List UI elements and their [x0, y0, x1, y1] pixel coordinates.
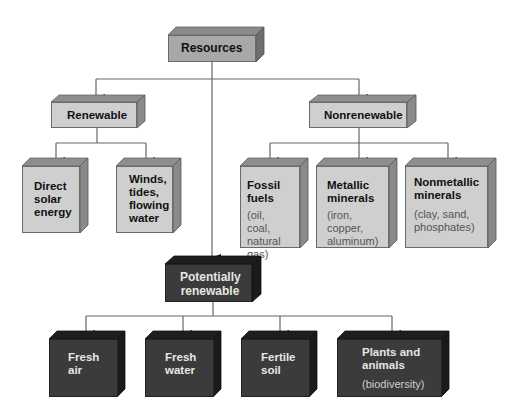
- nonmetallic-minerals-examples: (clay, sand, phosphates): [414, 208, 479, 234]
- fresh-air-label: Fresh air: [68, 351, 99, 377]
- label-line: minerals: [414, 189, 479, 202]
- label-line: Plants and: [362, 346, 424, 359]
- label-line: flowing: [129, 199, 169, 212]
- label-line: Fresh: [68, 351, 99, 364]
- label-line: Potentially: [180, 270, 240, 284]
- metallic-minerals-label: Metallic minerals (iron, copper, aluminu…: [327, 179, 378, 248]
- plants-and-animals-examples: (biodiversity): [362, 378, 424, 391]
- label-line: Fossil: [247, 179, 281, 192]
- label-line: solar: [34, 193, 72, 206]
- winds-tides-flowing-water-label: Winds, tides, flowing water: [129, 173, 169, 225]
- label-line: Metallic: [327, 179, 378, 192]
- label-line: water: [165, 364, 196, 377]
- label-line: Nonmetallic: [414, 176, 479, 189]
- label-line: Winds,: [129, 173, 169, 186]
- nonrenewable-label: Nonrenewable: [324, 109, 403, 122]
- label-line: air: [68, 364, 99, 377]
- metallic-minerals-examples: (iron, copper, aluminum): [327, 209, 378, 248]
- fossil-fuels-label: Fossil fuels (oil, coal, natural gas): [247, 179, 281, 261]
- plants-and-animals-label: Plants and animals (biodiversity): [362, 346, 424, 391]
- fertile-soil-label: Fertile soil: [261, 351, 296, 377]
- fresh-water-label: Fresh water: [165, 351, 196, 377]
- potentially-renewable-label: Potentially renewable: [180, 270, 240, 298]
- renewable-label: Renewable: [67, 109, 127, 122]
- label-line: tides,: [129, 186, 169, 199]
- label-line: renewable: [180, 284, 240, 298]
- example-line: aluminum): [327, 235, 378, 248]
- example-line: (biodiversity): [362, 378, 424, 391]
- label-line: soil: [261, 364, 296, 377]
- resource-classification-diagram: Resources Renewable Nonrenewable Direct …: [0, 0, 506, 417]
- label-line: Fresh: [165, 351, 196, 364]
- label-line: water: [129, 212, 169, 225]
- fossil-fuels-examples: (oil, coal, natural gas): [247, 209, 281, 261]
- direct-solar-energy-label: Direct solar energy: [34, 180, 72, 219]
- resources-label: Resources: [181, 42, 242, 55]
- label-line: Direct: [34, 180, 72, 193]
- label-line: Fertile: [261, 351, 296, 364]
- nonmetallic-minerals-label: Nonmetallic minerals (clay, sand, phosph…: [414, 176, 479, 234]
- example-line: phosphates): [414, 221, 479, 234]
- label-line: energy: [34, 206, 72, 219]
- label-line: minerals: [327, 192, 378, 205]
- example-line: copper,: [327, 222, 378, 235]
- example-line: (oil, coal,: [247, 209, 281, 235]
- example-line: (iron,: [327, 209, 378, 222]
- example-line: (clay, sand,: [414, 208, 479, 221]
- label-line: animals: [362, 359, 424, 372]
- example-line: natural: [247, 235, 281, 248]
- label-line: fuels: [247, 192, 281, 205]
